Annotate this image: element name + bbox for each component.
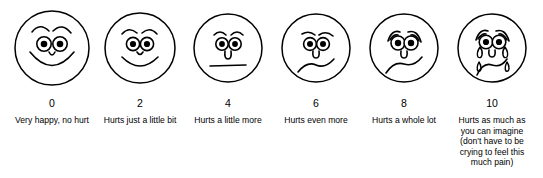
pain-scale-item-2[interactable]: 2 Hurts just a little bit [96,0,184,126]
pain-rating-scale: 0 Very happy, no hurt 2 Hurts just a lit… [0,0,543,178]
rating-number: 0 [49,97,55,109]
rating-caption: Hurts as much as you can imagine (don't … [449,115,535,168]
rating-number: 2 [137,97,143,109]
rating-number: 6 [313,97,319,109]
pain-scale-item-6[interactable]: 6 Hurts even more [272,0,360,126]
rating-number: 10 [486,97,498,109]
rating-caption: Hurts a little more [185,115,271,126]
rating-caption: Hurts a whole lot [361,115,447,126]
rating-caption: Hurts just a little bit [97,115,183,126]
pain-scale-item-4[interactable]: 4 Hurts a little more [184,0,272,126]
face-very-happy-icon[interactable] [8,0,96,96]
pain-scale-item-10[interactable]: 10 Hurts as much as you can imagine (don… [448,0,536,168]
pain-scale-item-0[interactable]: 0 Very happy, no hurt [8,0,96,126]
rating-caption: Very happy, no hurt [9,115,95,126]
rating-number: 8 [401,97,407,109]
face-neutral-icon[interactable] [184,0,272,96]
rating-caption: Hurts even more [273,115,359,126]
face-frowning-icon[interactable] [272,0,360,96]
face-happy-icon[interactable] [96,0,184,96]
pain-scale-item-8[interactable]: 8 Hurts a whole lot [360,0,448,126]
face-very-sad-icon[interactable] [360,0,448,96]
face-crying-icon[interactable] [448,0,536,96]
rating-number: 4 [225,97,231,109]
